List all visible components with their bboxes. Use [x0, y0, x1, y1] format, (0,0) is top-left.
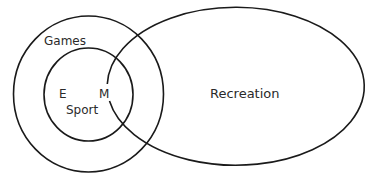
- recreation-label: Recreation: [210, 87, 280, 100]
- sport-circle: [44, 48, 133, 141]
- games-circle: [14, 16, 164, 172]
- games-label: Games: [44, 35, 86, 47]
- venn-diagram: Games E M Sport Recreation: [0, 0, 375, 178]
- point-e-label: E: [59, 88, 67, 100]
- point-m-label: M: [99, 88, 109, 100]
- venn-shapes: [0, 0, 375, 178]
- sport-label: Sport: [66, 104, 98, 116]
